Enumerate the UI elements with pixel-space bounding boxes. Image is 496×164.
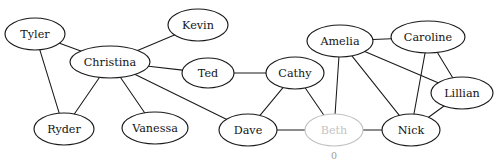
graph-edge-caroline-lillian xyxy=(437,52,452,77)
graph-node-lillian[interactable]: Lillian xyxy=(431,77,493,109)
graph-node-ryder[interactable]: Ryder xyxy=(34,113,94,145)
graph-node-cathy[interactable]: Cathy xyxy=(266,57,324,89)
graph-node-christina[interactable]: Christina xyxy=(70,46,150,78)
graph-edge-tyler-ryder xyxy=(40,50,59,113)
graph-edge-cathy-beth xyxy=(305,88,324,115)
node-label-ted: Ted xyxy=(198,67,218,80)
graph-node-beth[interactable]: Beth0 xyxy=(305,114,363,161)
node-label-dave: Dave xyxy=(234,124,263,137)
graph-node-ted[interactable]: Ted xyxy=(182,58,234,88)
graph-node-vanessa[interactable]: Vanessa xyxy=(122,112,188,144)
graph-node-dave[interactable]: Dave xyxy=(219,114,277,146)
graph-edge-nick-lillian xyxy=(429,106,444,117)
node-sublabel-beth: 0 xyxy=(331,150,337,161)
graph-node-tyler[interactable]: Tyler xyxy=(5,18,65,50)
node-label-christina: Christina xyxy=(84,56,137,69)
node-label-kevin: Kevin xyxy=(182,19,214,32)
graph-node-nick[interactable]: Nick xyxy=(382,114,440,146)
node-label-ryder: Ryder xyxy=(47,123,81,136)
node-label-nick: Nick xyxy=(398,124,425,137)
graph-edge-christina-vanessa xyxy=(121,77,145,112)
graph-edge-christina-ryder xyxy=(74,77,99,114)
node-label-vanessa: Vanessa xyxy=(131,122,178,135)
graph-edge-amelia-caroline xyxy=(373,39,391,40)
graph-node-kevin[interactable]: Kevin xyxy=(168,9,228,41)
graph-diagram: TylerChristinaKevinTedCathyAmeliaCarolin… xyxy=(0,0,496,164)
graph-edge-tyler-christina xyxy=(60,43,81,51)
graph-node-caroline[interactable]: Caroline xyxy=(391,21,465,53)
node-label-lillian: Lillian xyxy=(444,87,480,100)
graph-edge-amelia-lillian xyxy=(365,52,438,83)
node-label-caroline: Caroline xyxy=(404,31,453,44)
graph-edge-christina-kevin xyxy=(138,35,175,51)
node-label-cathy: Cathy xyxy=(278,67,312,80)
graph-node-amelia[interactable]: Amelia xyxy=(307,25,373,57)
node-label-beth: Beth xyxy=(321,124,348,137)
graph-edge-cathy-dave xyxy=(260,88,283,116)
graph-edge-caroline-nick xyxy=(414,53,425,114)
graph-edge-christina-ted xyxy=(149,66,183,70)
graph-canvas: TylerChristinaKevinTedCathyAmeliaCarolin… xyxy=(0,0,496,164)
node-label-tyler: Tyler xyxy=(20,28,50,41)
graph-edge-beth-amelia xyxy=(335,57,339,114)
graph-edge-amelia-nick xyxy=(352,56,399,115)
node-label-amelia: Amelia xyxy=(319,35,359,48)
